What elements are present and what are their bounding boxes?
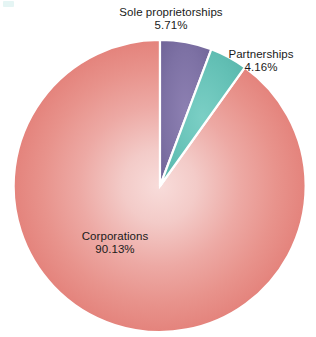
pie-label-corporations-name: Corporations xyxy=(60,230,170,243)
pie-label-sole-proprietorships-name: Sole proprietorships xyxy=(119,6,223,19)
pie-label-partnerships-value: 4.16% xyxy=(211,61,311,74)
pie-label-sole-proprietorships-value: 5.71% xyxy=(119,19,223,32)
pie-label-partnerships: Partnerships 4.16% xyxy=(211,48,311,74)
pie-label-partnerships-name: Partnerships xyxy=(211,48,311,61)
pie-label-sole-proprietorships: Sole proprietorships 5.71% xyxy=(119,6,223,32)
pie-chart-figure: Sole proprietorships 5.71% Partnerships … xyxy=(0,0,316,337)
pie-label-corporations: Corporations 90.13% xyxy=(60,230,170,256)
pie-label-corporations-value: 90.13% xyxy=(60,243,170,256)
